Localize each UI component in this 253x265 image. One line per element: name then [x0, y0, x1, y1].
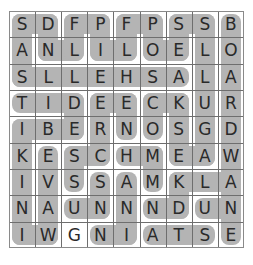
board-border — [9, 11, 244, 248]
word-search-board: SDFPFPSSBANLILOELOSLLEHSALATIDEECKURIBER… — [9, 11, 244, 248]
